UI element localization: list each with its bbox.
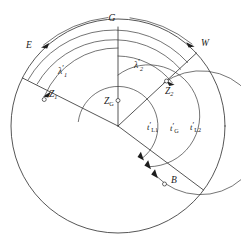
label-greenwich: G <box>109 13 116 23</box>
z2-marker <box>165 79 169 83</box>
zg-marker <box>116 99 120 103</box>
label-b: B <box>171 175 177 185</box>
figure-container: W) : broken for G label ===== --> <box>0 0 241 247</box>
longitude-inner-arc <box>37 40 181 85</box>
label-t-l1: t′L1 <box>147 121 158 133</box>
label-zg: ZG <box>104 96 114 107</box>
label-east: E <box>25 40 32 50</box>
west-direction-arc <box>130 18 192 44</box>
label-z2: Z2 <box>165 86 173 97</box>
b-marker <box>163 182 167 186</box>
t-l1-arrowhead-icon <box>138 152 145 161</box>
label-z1: Z1 <box>49 89 57 100</box>
longitude-2-arc <box>118 56 172 83</box>
label-lambda-1: λ′1 <box>57 64 67 78</box>
celestial-sphere-diagram: W) : broken for G label ===== --> <box>0 0 241 247</box>
z1-marker <box>42 98 46 102</box>
label-west: W <box>201 38 210 48</box>
observer-2-meridian-line <box>118 53 197 126</box>
label-t-g: t′G <box>170 122 179 134</box>
t-g-arrowhead-icon <box>144 160 151 169</box>
greenwich-hour-angle-arc <box>118 65 200 167</box>
t-l2-arrowhead-icon <box>151 169 158 178</box>
